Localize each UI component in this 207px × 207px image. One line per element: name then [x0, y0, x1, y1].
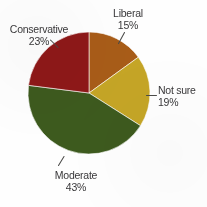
- pie-label-conservative-percent: 23%: [2, 36, 76, 48]
- pie-label-moderate-percent: 43%: [48, 182, 104, 194]
- pie-label-conservative-name: Conservative: [2, 24, 76, 36]
- pie-slices-group: [28, 32, 150, 154]
- pie-label-liberal-percent: 15%: [103, 20, 153, 32]
- pie-chart-figure: Liberal 15% Not sure 19% Conservative 23…: [0, 0, 207, 207]
- pie-label-notsure: Not sure 19%: [158, 85, 206, 108]
- pie-label-liberal: Liberal 15%: [103, 8, 153, 31]
- pie-label-conservative: Conservative 23%: [2, 24, 76, 47]
- pie-label-notsure-name: Not sure: [158, 85, 206, 97]
- pie-label-notsure-percent: 19%: [158, 97, 206, 109]
- pie-label-moderate-name: Moderate: [48, 170, 104, 182]
- pie-label-liberal-name: Liberal: [103, 8, 153, 20]
- pie-label-moderate: Moderate 43%: [48, 170, 104, 193]
- leader-line-moderate: [59, 157, 65, 166]
